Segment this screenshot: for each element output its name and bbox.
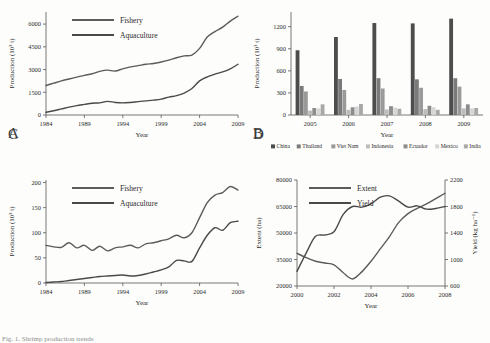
svg-text:4500: 4500	[28, 43, 41, 50]
panel-letter-d: D	[253, 126, 264, 143]
svg-text:1989: 1989	[78, 288, 91, 295]
svg-text:Extent (ha): Extent (ha)	[255, 217, 263, 249]
svg-text:2007: 2007	[381, 120, 395, 127]
svg-text:3000: 3000	[28, 66, 41, 73]
svg-text:100: 100	[31, 229, 41, 236]
svg-text:20000: 20000	[276, 282, 292, 289]
svg-text:India: India	[469, 143, 481, 149]
svg-text:2004: 2004	[365, 291, 379, 298]
svg-text:Aquaculture: Aquaculture	[120, 199, 158, 208]
svg-text:China: China	[277, 143, 291, 149]
svg-text:0: 0	[283, 111, 286, 118]
panel-c-line-chart: 050100150200198419891994199920042009Year…	[0, 168, 245, 341]
svg-text:Production (10³ t): Production (10³ t)	[253, 38, 261, 89]
svg-text:2009: 2009	[457, 120, 470, 127]
svg-text:Yield (kg ha⁻¹): Yield (kg ha⁻¹)	[471, 211, 479, 255]
svg-text:1200: 1200	[273, 23, 286, 30]
svg-text:0: 0	[38, 111, 41, 118]
svg-text:Thailand: Thailand	[302, 143, 322, 149]
svg-text:50: 50	[35, 254, 41, 261]
panel-a-line-chart: 0150030004500600019841989199419992004200…	[0, 0, 245, 170]
svg-text:Fishery: Fishery	[120, 16, 143, 25]
svg-text:1999: 1999	[155, 288, 168, 295]
svg-text:Year: Year	[381, 131, 395, 139]
svg-text:2008: 2008	[439, 291, 452, 298]
panel-letter-c: C	[8, 126, 18, 143]
svg-text:Indonesia: Indonesia	[371, 143, 393, 149]
svg-text:1999: 1999	[155, 120, 168, 127]
svg-text:Fishery: Fishery	[120, 184, 143, 193]
svg-text:80000: 80000	[276, 176, 292, 183]
svg-text:900: 900	[276, 45, 286, 52]
svg-text:Aquaculture: Aquaculture	[120, 31, 158, 40]
svg-text:2000: 2000	[291, 291, 304, 298]
svg-text:65000: 65000	[276, 203, 292, 210]
svg-text:Year: Year	[136, 299, 150, 307]
svg-text:2004: 2004	[193, 120, 207, 127]
svg-text:Mexico: Mexico	[441, 143, 458, 149]
svg-text:35000: 35000	[276, 256, 292, 263]
svg-text:Year: Year	[365, 302, 379, 310]
svg-text:150: 150	[31, 204, 41, 211]
svg-text:2005: 2005	[304, 120, 317, 127]
svg-text:Ecuador: Ecuador	[409, 143, 428, 149]
svg-text:Extent: Extent	[357, 184, 378, 193]
svg-text:300: 300	[276, 89, 286, 96]
svg-text:1400: 1400	[450, 229, 463, 236]
svg-text:0: 0	[38, 279, 41, 286]
svg-text:2008: 2008	[419, 120, 432, 127]
figure-caption: Fig. 1. Shrimp production trends	[2, 335, 488, 343]
panel-d-dual-axis-chart: 2000035000500006500080000600100014001800…	[245, 168, 490, 341]
svg-text:Production (10³ t): Production (10³ t)	[8, 206, 16, 257]
svg-text:1984: 1984	[40, 120, 54, 127]
svg-text:2006: 2006	[402, 291, 415, 298]
svg-text:Viet Nam: Viet Nam	[337, 143, 359, 149]
svg-text:6000: 6000	[28, 20, 41, 27]
svg-text:2004: 2004	[193, 288, 207, 295]
svg-text:1994: 1994	[116, 120, 130, 127]
svg-text:600: 600	[450, 282, 460, 289]
svg-text:1800: 1800	[450, 203, 463, 210]
svg-text:2002: 2002	[328, 291, 341, 298]
svg-text:Year: Year	[136, 131, 150, 139]
svg-text:1989: 1989	[78, 120, 91, 127]
svg-text:2009: 2009	[232, 120, 245, 127]
svg-text:2200: 2200	[450, 176, 463, 183]
svg-text:Yield: Yield	[357, 199, 374, 208]
svg-text:2009: 2009	[232, 288, 245, 295]
svg-text:1984: 1984	[40, 288, 54, 295]
svg-text:1994: 1994	[116, 288, 130, 295]
svg-text:1000: 1000	[450, 256, 463, 263]
svg-text:600: 600	[276, 67, 286, 74]
svg-text:200: 200	[31, 179, 41, 186]
svg-text:Production (10³ t): Production (10³ t)	[8, 38, 16, 89]
svg-text:1500: 1500	[28, 89, 41, 96]
svg-text:50000: 50000	[276, 229, 292, 236]
panel-b-bar-chart: 0300600900120020052006200720082009YearPr…	[245, 0, 490, 170]
svg-text:2006: 2006	[342, 120, 355, 127]
